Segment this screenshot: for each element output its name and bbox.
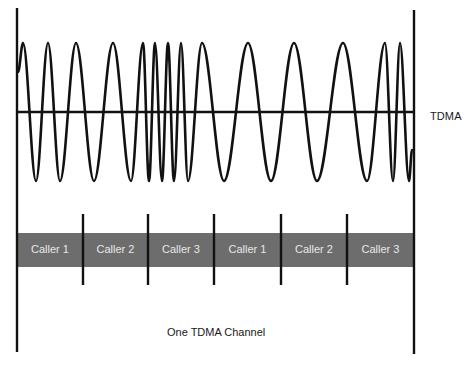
time-slot-bar bbox=[17, 233, 414, 267]
slot-label-6: Caller 3 bbox=[362, 243, 400, 255]
slot-label-1: Caller 1 bbox=[31, 243, 69, 255]
channel-caption: One TDMA Channel bbox=[167, 326, 265, 338]
slot-label-2: Caller 2 bbox=[97, 243, 135, 255]
slot-label-3: Caller 3 bbox=[162, 243, 200, 255]
tdma-diagram bbox=[0, 0, 476, 367]
tdma-label: TDMA bbox=[430, 110, 462, 122]
slot-label-4: Caller 1 bbox=[229, 243, 267, 255]
slot-label-5: Caller 2 bbox=[295, 243, 333, 255]
